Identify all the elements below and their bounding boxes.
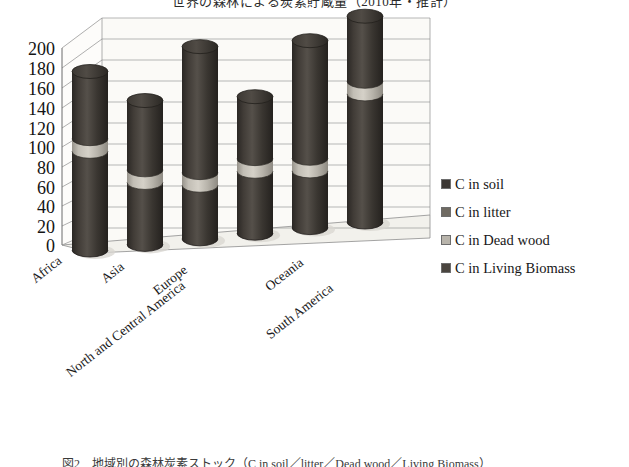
bar-top-cap bbox=[72, 65, 108, 79]
legend-item-c-in-living-biomass[interactable]: C in Living Biomass bbox=[441, 254, 629, 282]
segment-soil bbox=[182, 47, 218, 180]
chart-figure: 世界の森林による炭素貯蔵量（2010年・推計） bbox=[0, 0, 629, 467]
legend-swatch-icon bbox=[441, 263, 451, 273]
segment-living-biomass bbox=[182, 185, 218, 246]
x-label-africa: Africa bbox=[28, 253, 65, 287]
x-label-north-america: North and Central America bbox=[63, 278, 188, 381]
y-tick: 60 bbox=[37, 178, 55, 198]
segment-soil bbox=[347, 16, 383, 88]
legend-item-c-in-litter[interactable]: C in litter bbox=[441, 198, 629, 226]
legend-label: C in soil bbox=[455, 176, 504, 193]
segment-soil bbox=[237, 97, 273, 166]
y-tick: 80 bbox=[37, 158, 55, 178]
figure-caption-clipped: 図2 地域別の森林炭素ストック（C in soil／litter／Dead wo… bbox=[0, 456, 629, 467]
bar-top-cap bbox=[127, 94, 163, 108]
x-label-asia: Asia bbox=[98, 259, 127, 287]
y-tick: 140 bbox=[28, 99, 55, 119]
plot-area: 200 180 160 140 120 100 80 60 40 20 0 bbox=[0, 0, 440, 270]
segment-living-biomass bbox=[292, 171, 328, 235]
y-tick: 40 bbox=[37, 197, 55, 217]
legend-label: C in Dead wood bbox=[455, 232, 550, 249]
plot-svg: 200 180 160 140 120 100 80 60 40 20 0 bbox=[0, 0, 440, 270]
bar-top-cap bbox=[237, 90, 273, 104]
bar-top-cap bbox=[347, 9, 383, 23]
legend: C in soil C in litter C in Dead wood C i… bbox=[441, 170, 629, 282]
segment-living-biomass bbox=[347, 94, 383, 229]
segment-soil bbox=[127, 101, 163, 177]
x-axis-labels: Africa Asia Europe North and Central Ame… bbox=[0, 248, 440, 458]
figure-caption: 図2 地域別の森林炭素ストック（C in soil／litter／Dead wo… bbox=[62, 456, 491, 467]
x-label-oceania: Oceania bbox=[262, 255, 307, 295]
segment-soil bbox=[292, 41, 328, 166]
legend-item-c-in-soil[interactable]: C in soil bbox=[441, 170, 629, 198]
y-tick: 200 bbox=[28, 39, 55, 59]
y-tick: 180 bbox=[28, 59, 55, 79]
segment-soil bbox=[72, 72, 108, 146]
y-tick: 20 bbox=[37, 217, 55, 237]
segment-living-biomass bbox=[127, 182, 163, 251]
bar-top-cap bbox=[182, 40, 218, 54]
legend-swatch-icon bbox=[441, 235, 451, 245]
y-tick: 120 bbox=[28, 119, 55, 139]
bar-top-cap bbox=[292, 34, 328, 48]
segment-living-biomass bbox=[237, 171, 273, 240]
legend-item-c-in-dead-wood[interactable]: C in Dead wood bbox=[441, 226, 629, 254]
legend-swatch-icon bbox=[441, 179, 451, 189]
legend-label: C in Living Biomass bbox=[455, 260, 575, 277]
y-tick-labels: 200 180 160 140 120 100 80 60 40 20 0 bbox=[28, 39, 55, 256]
segment-living-biomass bbox=[72, 151, 108, 257]
legend-swatch-icon bbox=[441, 207, 451, 217]
y-tick: 100 bbox=[28, 138, 55, 158]
legend-label: C in litter bbox=[455, 204, 511, 221]
y-tick: 160 bbox=[28, 79, 55, 99]
